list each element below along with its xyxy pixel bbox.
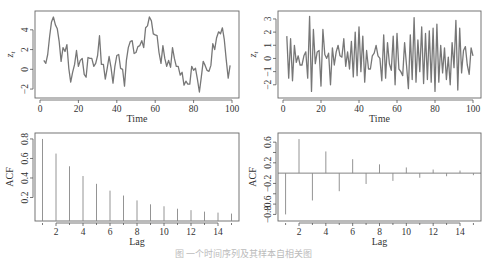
- x-tick-label: 60: [150, 104, 160, 114]
- x-tick-label: 14: [213, 227, 223, 237]
- x-tick-label: 20: [74, 104, 84, 114]
- x-tick-label: 10: [159, 227, 169, 237]
- y-tick-label: 0.6: [263, 136, 273, 148]
- y-tick-label: −2: [20, 84, 30, 94]
- y-tick-label: 3: [263, 16, 273, 21]
- x-axis: 020406080100: [281, 100, 481, 114]
- x-tick-label: 2: [297, 227, 302, 237]
- y-tick-label: 2: [20, 47, 30, 52]
- y-tick-label: 0.8: [20, 133, 30, 145]
- y-axis-label: zt: [4, 51, 17, 59]
- y-tick-label: 0.2: [263, 157, 273, 169]
- x-tick-label: 4: [81, 227, 86, 237]
- x-tick-label: 80: [430, 104, 440, 114]
- plot-frame: [278, 133, 481, 221]
- time-series-line: [287, 16, 473, 91]
- y-tick-label: 1: [263, 43, 273, 48]
- x-tick-label: 40: [354, 104, 364, 114]
- x-tick-label: 0: [38, 104, 43, 114]
- x-axis-label: Time: [369, 113, 390, 124]
- time-series-line: [44, 17, 230, 92]
- x-tick-label: 100: [225, 104, 240, 114]
- x-axis: 2468101214: [286, 223, 474, 237]
- y-axis-label: ACF: [4, 167, 15, 187]
- panel-bottom-right: 2468101214Lag−0.8−0.6−0.20.20.6ACF: [247, 133, 481, 247]
- y-axis: −2024: [20, 27, 33, 94]
- x-tick-label: 12: [186, 227, 196, 237]
- x-tick-label: 100: [466, 104, 481, 114]
- y-tick-label: 0: [20, 67, 30, 72]
- x-axis-label: Lag: [129, 236, 145, 247]
- x-tick-label: 40: [112, 104, 122, 114]
- y-axis: −2−10123: [263, 16, 276, 90]
- y-axis-label: zt: [247, 51, 260, 59]
- x-tick-label: 6: [108, 227, 113, 237]
- y-axis: 0.20.40.60.8: [20, 133, 33, 204]
- x-axis-label: Lag: [372, 236, 388, 247]
- x-tick-label: 14: [455, 227, 465, 237]
- y-tick-label: 0.6: [20, 152, 30, 164]
- y-tick-label: −2: [263, 79, 273, 89]
- x-tick-label: 12: [428, 227, 438, 237]
- y-tick-label: 0.2: [20, 191, 30, 203]
- figure-canvas: 020406080100Time−2024zt020406080100Time−…: [0, 0, 487, 261]
- y-tick-label: −0.6: [263, 195, 273, 212]
- panel-top-right: 020406080100Time−2−10123zt: [247, 11, 481, 124]
- panel-bottom-left: 2468101214Lag0.20.40.60.8ACF: [4, 133, 239, 247]
- y-axis-label: ACF: [247, 167, 258, 187]
- plot-frame: [35, 11, 239, 98]
- panel-top-left: 020406080100Time−2024zt: [4, 11, 239, 124]
- x-tick-label: 60: [392, 104, 402, 114]
- y-tick-label: 2: [263, 29, 273, 34]
- x-tick-label: 0: [281, 104, 286, 114]
- x-axis: 020406080100: [38, 100, 240, 114]
- x-tick-label: 10: [402, 227, 412, 237]
- y-tick-label: −1: [263, 66, 273, 76]
- x-axis: 2468101214: [43, 223, 232, 237]
- x-tick-label: 4: [323, 227, 328, 237]
- x-tick-label: 80: [189, 104, 199, 114]
- x-tick-label: 2: [54, 227, 59, 237]
- y-axis: −0.8−0.6−0.20.20.6: [263, 136, 276, 223]
- y-tick-label: 0: [263, 56, 273, 61]
- x-tick-label: 20: [316, 104, 326, 114]
- y-tick-label: 4: [20, 27, 30, 32]
- y-tick-label: 0.4: [20, 172, 30, 184]
- x-axis-label: Time: [127, 113, 148, 124]
- figure-caption: 图 一个时间序列及其样本自相关图: [0, 247, 487, 260]
- y-tick-label: −0.2: [263, 175, 273, 192]
- x-tick-label: 6: [350, 227, 355, 237]
